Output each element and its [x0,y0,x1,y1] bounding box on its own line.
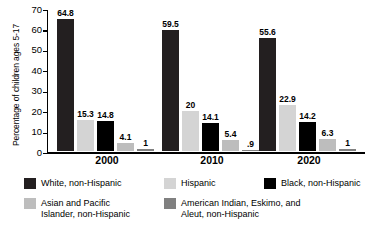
bar-value-label: .9 [247,139,254,149]
bar-slot: 22.9 [279,8,296,151]
bar-slot: 14.2 [299,8,316,151]
y-axis-line [47,10,48,153]
y-tick-mark [43,153,47,154]
legend-label-white-non-hispanic: White, non-Hispanic [41,178,122,189]
chart-legend: White, non-Hispanic Hispanic Black, non-… [24,178,364,218]
bar-value-label: 14.8 [97,110,114,120]
y-tick-label: 20 [31,106,42,117]
bar-slot: 20 [182,8,199,151]
bar[interactable] [202,123,219,152]
bar[interactable] [279,105,296,152]
bar[interactable] [319,139,336,152]
y-tick-label: 30 [31,85,42,96]
bar-value-label: 20 [186,100,195,110]
legend-swatch-black-non-hispanic [264,178,276,189]
y-tick-mark [43,112,47,113]
bar-value-label: 55.6 [259,27,276,37]
y-tick-mark [43,71,47,72]
bar-value-label: 14.1 [202,112,219,122]
y-tick-label: 0 [37,147,42,158]
legend-label-hispanic: Hispanic [181,178,216,189]
y-tick-mark [43,92,47,93]
bar[interactable] [182,111,199,152]
bar[interactable] [162,30,179,152]
legend-item-black-non-hispanic: Black, non-Hispanic [264,178,361,189]
y-tick-label: 50 [31,44,42,55]
y-tick-mark [43,51,47,52]
y-tick-label: 10 [31,126,42,137]
bar[interactable] [137,149,154,151]
y-tick-label: 60 [31,24,42,35]
x-axis-label-2000: 2000 [57,154,157,166]
bars-row: 55.622.914.26.31 [259,8,359,151]
bar[interactable] [339,149,356,151]
bar-group-2010: 59.52014.15.4.92010 [162,8,262,151]
bar-value-label: 15.3 [77,109,94,119]
bar-slot: 14.8 [97,8,114,151]
bar-value-label: 64.8 [57,8,74,18]
y-tick-mark [43,30,47,31]
legend-item-asian-pacific-islander: Asian and Pacific Islander, non-Hispanic [24,198,130,219]
y-axis-title: Percentage of children ages 5-17 [11,0,21,146]
plot-area: Percentage of children ages 5-17 7060504… [47,10,365,153]
bar-value-label: 1 [345,138,350,148]
bar-value-label: 14.2 [299,111,316,121]
legend-item-american-indian-eskimo-aleut: American Indian, Eskimo, and Aleut, non-… [164,198,301,219]
legend-label-black-non-hispanic: Black, non-Hispanic [281,178,361,189]
bar-slot: 59.5 [162,8,179,151]
x-axis-line [47,152,365,154]
bar-slot: 5.4 [222,8,239,151]
legend-item-white-non-hispanic: White, non-Hispanic [24,178,122,189]
legend-swatch-american-indian-eskimo-aleut [164,198,176,209]
bar-slot: .9 [242,8,259,151]
bar[interactable] [57,19,74,151]
bar-slot: 4.1 [117,8,134,151]
bars-row: 59.52014.15.4.9 [162,8,262,151]
bar[interactable] [259,38,276,152]
y-tick-mark [43,133,47,134]
bar[interactable] [97,121,114,151]
bars-row: 64.815.314.84.11 [57,8,157,151]
legend-swatch-asian-pacific-islander [24,198,36,209]
legend-label-asian-pacific-islander: Asian and Pacific Islander, non-Hispanic [41,198,130,219]
legend-swatch-white-non-hispanic [24,178,36,189]
bar-value-label: 22.9 [279,94,296,104]
legend-row-2: Asian and Pacific Islander, non-Hispanic… [24,198,364,218]
bar-value-label: 59.5 [162,19,179,29]
legend-swatch-hispanic [164,178,176,189]
bar-slot: 1 [339,8,356,151]
x-axis-label-2010: 2010 [162,154,262,166]
bar-chart-figure: Percentage of children ages 5-17 7060504… [0,0,372,229]
bar[interactable] [117,143,134,151]
bar-slot: 14.1 [202,8,219,151]
y-tick-mark [43,10,47,11]
bar-value-label: 5.4 [225,129,237,139]
x-axis-label-2020: 2020 [259,154,359,166]
bar-group-2020: 55.622.914.26.312020 [259,8,359,151]
legend-item-hispanic: Hispanic [164,178,216,189]
bar[interactable] [77,120,94,151]
bar-value-label: 6.3 [322,128,334,138]
bar[interactable] [242,150,259,152]
bar-slot: 1 [137,8,154,151]
bar-slot: 55.6 [259,8,276,151]
bar[interactable] [222,140,239,151]
legend-row-1: White, non-Hispanic Hispanic Black, non-… [24,178,364,198]
bar-slot: 15.3 [77,8,94,151]
y-tick-label: 70 [31,4,42,15]
bar-value-label: 4.1 [120,132,132,142]
bar-group-2000: 64.815.314.84.112000 [57,8,157,151]
bar-value-label: 1 [143,138,148,148]
bar[interactable] [299,122,316,151]
legend-label-american-indian-eskimo-aleut: American Indian, Eskimo, and Aleut, non-… [181,198,301,219]
bar-slot: 6.3 [319,8,336,151]
bar-slot: 64.8 [57,8,74,151]
y-tick-label: 40 [31,65,42,76]
